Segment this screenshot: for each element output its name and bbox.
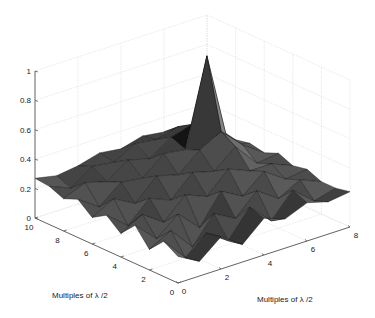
z-tick-label: 1 <box>27 67 32 76</box>
y-tick-label: 0 <box>170 288 175 297</box>
x-tick-label: 6 <box>311 245 316 254</box>
surface-plot: 00.20.40.60.81024681002468 Multiples of … <box>0 0 375 318</box>
x-tick-label: 8 <box>354 231 359 240</box>
y-tick-label: 4 <box>113 262 118 271</box>
z-tick-label: 0.4 <box>20 155 32 164</box>
z-tick-label: 0.8 <box>20 96 32 105</box>
y-tick-label: 8 <box>55 236 60 245</box>
y-tick-label: 2 <box>141 275 146 284</box>
x-tick-label: 2 <box>225 273 230 282</box>
y-axis-label: Multiples of λ /2 <box>52 291 108 300</box>
surface-mesh <box>35 56 350 261</box>
z-tick-label: 0.2 <box>20 185 32 194</box>
z-tick-label: 0 <box>27 214 32 223</box>
x-tick-label: 0 <box>182 287 187 296</box>
x-axis-label: Multiples of λ /2 <box>257 295 313 304</box>
x-tick-label: 4 <box>268 259 273 268</box>
z-tick-label: 0.6 <box>20 126 32 135</box>
y-tick-label: 6 <box>84 249 89 258</box>
y-tick-label: 10 <box>25 223 34 232</box>
